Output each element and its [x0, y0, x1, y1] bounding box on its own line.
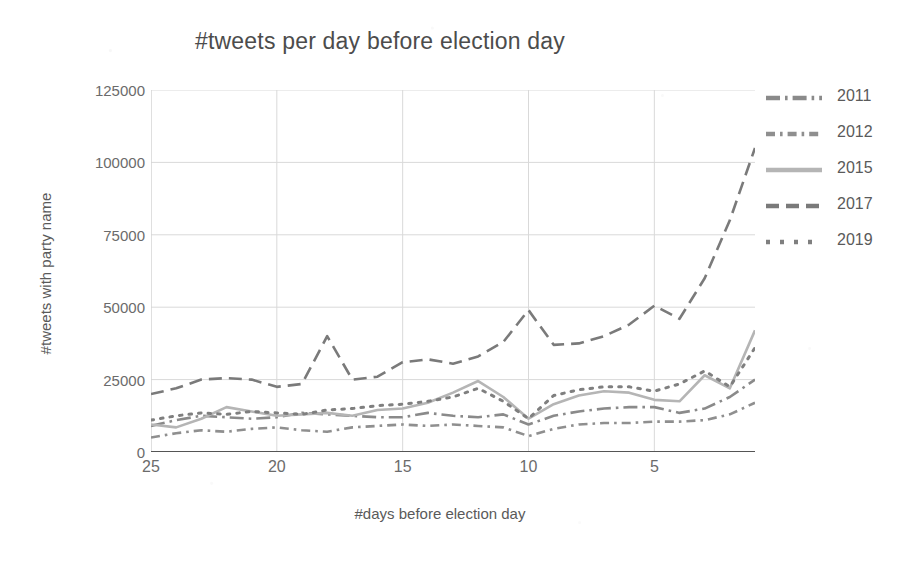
legend-swatch-2015	[765, 162, 823, 174]
legend-label: 2011	[837, 87, 871, 105]
y-tick-label: 125000	[59, 82, 145, 99]
legend-label: 2015	[837, 159, 873, 177]
x-tick-label: 20	[268, 458, 286, 476]
x-tick-label: 15	[394, 458, 412, 476]
legend-swatch-2019	[765, 234, 823, 246]
y-tick-label: 25000	[59, 371, 145, 388]
chart-legend: 20112012201520172019	[765, 78, 915, 258]
plot-area	[151, 90, 755, 452]
x-tick-label: 25	[142, 458, 160, 476]
legend-item-2015[interactable]: 2015	[765, 150, 915, 186]
legend-item-2019[interactable]: 2019	[765, 222, 915, 258]
y-tick-label: 50000	[59, 299, 145, 316]
legend-swatch-2012	[765, 126, 823, 138]
legend-item-2017[interactable]: 2017	[765, 186, 915, 222]
y-axis-ticks: 0250005000075000100000125000	[55, 90, 145, 452]
y-tick-label: 0	[59, 444, 145, 461]
chart-figure: #tweets per day before election day #twe…	[0, 0, 920, 562]
plot-svg	[151, 90, 755, 452]
series-line-2017	[151, 148, 755, 394]
legend-label: 2017	[837, 195, 873, 213]
series-line-2012	[151, 403, 755, 438]
chart-title: #tweets per day before election day	[0, 28, 760, 55]
x-axis-ticks: 252015105	[151, 458, 755, 484]
legend-label: 2019	[837, 231, 873, 249]
legend-item-2012[interactable]: 2012	[765, 114, 915, 150]
y-tick-label: 100000	[59, 154, 145, 171]
x-tick-label: 10	[520, 458, 538, 476]
x-tick-label: 5	[650, 458, 659, 476]
y-axis-label: #tweets with party name	[37, 144, 54, 404]
legend-item-2011[interactable]: 2011	[765, 78, 915, 114]
x-axis-label: #days before election day	[130, 505, 750, 522]
series-line-2011	[151, 380, 755, 426]
y-tick-label: 75000	[59, 226, 145, 243]
legend-swatch-2017	[765, 198, 823, 210]
legend-label: 2012	[837, 123, 873, 141]
legend-swatch-2011	[765, 90, 823, 102]
